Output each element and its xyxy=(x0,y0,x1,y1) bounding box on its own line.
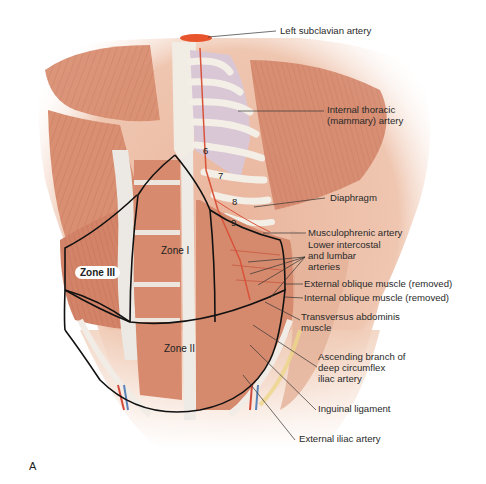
subclavian-artery xyxy=(180,34,212,42)
rib-number-6: 6 xyxy=(203,145,208,156)
label-ascending-branch-deep-circumflex-iliac-artery: Ascending branch of deep circumflex ilia… xyxy=(318,351,405,384)
label-external-oblique-muscle: External oblique muscle (removed) xyxy=(304,278,452,289)
rib-number-8: 8 xyxy=(232,196,237,207)
zone-3-label: Zone III xyxy=(75,266,120,279)
rib-number-7: 7 xyxy=(218,170,223,181)
label-inguinal-ligament: Inguinal ligament xyxy=(318,403,391,414)
label-internal-oblique-muscle: Internal oblique muscle (removed) xyxy=(304,292,449,303)
anatomy-illustration xyxy=(0,0,486,484)
label-external-iliac-artery: External iliac artery xyxy=(299,433,381,444)
rib-number-9: 9 xyxy=(231,217,236,228)
label-diaphragm: Diaphragm xyxy=(330,192,377,203)
label-transversus-abdominis-muscle: Transversus abdominis muscle xyxy=(301,311,400,333)
label-internal-thoracic-artery: Internal thoracic (mammary) artery xyxy=(327,104,403,126)
zone-2-label: Zone II xyxy=(164,343,195,354)
label-musculophrenic-artery: Musculophrenic artery xyxy=(308,227,402,238)
label-lower-intercostal-lumbar-arteries: Lower intercostal and lumbar arteries xyxy=(308,239,381,272)
panel-letter: A xyxy=(29,460,36,472)
zone-1-label: Zone I xyxy=(161,245,189,256)
rectus-abdominis-left xyxy=(134,160,182,400)
label-left-subclavian-artery: Left subclavian artery xyxy=(280,25,371,36)
